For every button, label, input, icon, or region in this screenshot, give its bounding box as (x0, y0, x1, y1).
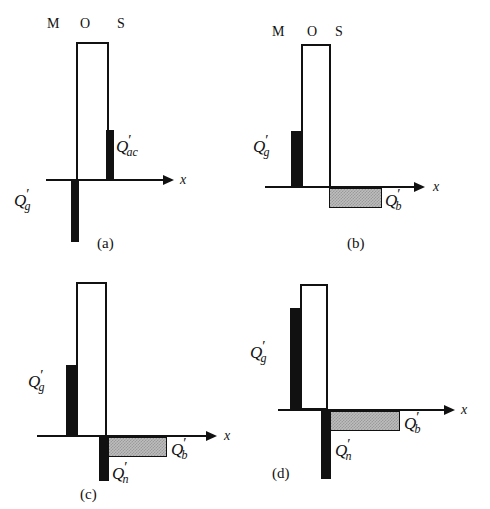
charge-label-q-n: Q′n (112, 465, 134, 484)
oxide-layer-box (76, 282, 107, 437)
panel-caption-b: (b) (347, 236, 365, 251)
charge-bar-q-b (327, 411, 400, 431)
panel-b: M O S x Q′g Q′b (b) (245, 0, 490, 255)
charge-label-q-b: Q′b (385, 192, 407, 211)
x-axis-arrow-icon (163, 175, 174, 185)
charge-bar-q-g (291, 131, 301, 188)
mos-charge-figure: M O S x Q′ac Q′g (a) M O S x Q′g (0, 0, 490, 509)
panel-d: x Q′g Q′b Q′n (d) (245, 255, 490, 509)
x-axis-label: x (180, 173, 186, 187)
x-axis-label: x (224, 429, 230, 443)
charge-bar-q-b (105, 437, 167, 457)
panel-caption-c: (c) (80, 487, 97, 502)
charge-label-q-g: Q′g (253, 138, 275, 157)
panel-a: M O S x Q′ac Q′g (a) (0, 0, 245, 255)
charge-label-q-g-sub: g (25, 199, 31, 213)
charge-bar-q-g (71, 180, 79, 242)
oxide-layer-box (76, 42, 109, 181)
oxide-layer-box (300, 284, 328, 410)
charge-label-q-b-sub: b (415, 422, 421, 436)
oxide-layer-box (301, 44, 331, 188)
x-axis-arrow-icon (444, 405, 455, 415)
charge-label-q-n-sub: n (346, 449, 352, 463)
layer-label-semiconductor: S (117, 17, 125, 31)
charge-label-q-n-sub: n (123, 472, 129, 486)
charge-bar-q-ac (106, 130, 114, 180)
x-axis-arrow-icon (414, 182, 425, 192)
charge-label-q-b-sub: b (396, 199, 402, 213)
charge-label-q-g: Q′g (250, 344, 272, 363)
charge-label-q-g-sub: g (264, 145, 270, 159)
charge-label-q-ac: Q′ac (116, 138, 143, 157)
charge-label-q-n: Q′n (335, 442, 357, 461)
x-axis-label: x (433, 180, 439, 194)
charge-bar-q-b (329, 188, 382, 208)
charge-bar-q-n (321, 411, 331, 479)
charge-label-q-b: Q′b (404, 415, 426, 434)
panel-caption-d: (d) (272, 466, 290, 481)
charge-label-q-g-sub: g (39, 380, 45, 394)
x-axis-label: x (461, 403, 467, 417)
panel-caption-a: (a) (97, 236, 114, 251)
charge-label-q-b-sub: b (182, 448, 188, 462)
layer-label-oxide: O (80, 17, 90, 31)
charge-label-q-g-sub: g (261, 351, 267, 365)
charge-bar-q-g (290, 308, 300, 409)
charge-label-q-g: Q′g (14, 192, 36, 211)
charge-label-q-b: Q′b (171, 441, 193, 460)
charge-label-q-g: Q′g (28, 373, 50, 392)
layer-label-semiconductor: S (335, 25, 343, 39)
x-axis-arrow-icon (206, 431, 217, 441)
layer-label-metal: M (47, 17, 60, 31)
layer-label-oxide: O (307, 25, 317, 39)
charge-bar-q-g (66, 365, 76, 437)
panel-c: x Q′g Q′b Q′n (c) (0, 255, 245, 509)
charge-bar-q-n (99, 437, 109, 481)
charge-label-q-ac-sub: ac (127, 145, 138, 159)
layer-label-metal: M (272, 25, 285, 39)
